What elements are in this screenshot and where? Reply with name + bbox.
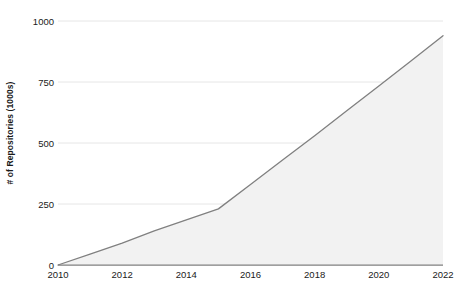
x-tick-label: 2012	[112, 269, 133, 280]
area-chart: # of Repositories (1000s) 02505007501000…	[0, 0, 465, 291]
x-tick-label: 2020	[368, 269, 389, 280]
x-tick-label: 2010	[47, 269, 68, 280]
x-tick-label: 2022	[432, 269, 453, 280]
x-tick-label: 2016	[240, 269, 261, 280]
x-tick-label: 2018	[304, 269, 325, 280]
x-tick-label: 2014	[176, 269, 197, 280]
x-axis-ticks: 2010201220142016201820202022	[0, 0, 465, 291]
